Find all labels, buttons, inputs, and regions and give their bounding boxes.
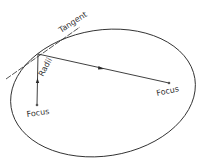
radius-right (38, 54, 169, 83)
focus-left-label: Focus (26, 107, 50, 119)
arrow-right-icon (98, 66, 104, 70)
focus-right-point (168, 82, 171, 85)
tangent-label: Tangent (56, 10, 88, 35)
focus-right-label: Focus (156, 84, 180, 98)
ellipse-diagram: Tangent Radii Focus Focus (0, 0, 202, 163)
radii-label: Radii (37, 56, 54, 78)
focus-left-point (36, 104, 39, 107)
arrow-up-icon (36, 78, 39, 83)
